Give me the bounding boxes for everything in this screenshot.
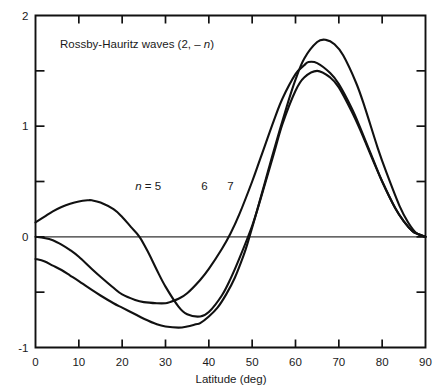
x-tick-label-10: 10: [72, 356, 85, 368]
y-tick-label-0: 0: [22, 231, 28, 243]
chart-title-text: Rossby-Hauritz waves (2, –: [60, 38, 204, 50]
x-axis-ticks-bottom: [79, 340, 382, 348]
rossby-haurwitz-wave-plot: 0102030405060708090 210-1 Rossby-Hauritz…: [0, 0, 438, 391]
y-axis-ticks-right: [417, 71, 426, 292]
chart-figure: 0102030405060708090 210-1 Rossby-Hauritz…: [0, 0, 438, 391]
chart-title: Rossby-Hauritz waves (2, – n): [60, 38, 214, 50]
x-axis-ticks-top: [79, 16, 382, 24]
x-tick-label-0: 0: [32, 356, 38, 368]
x-tick-label-60: 60: [289, 356, 302, 368]
curve-n-5: [36, 71, 426, 317]
x-axis-title: Latitude (deg): [196, 373, 267, 385]
y-tick-label-2: 2: [22, 10, 28, 22]
y-tick-label-1: 1: [22, 120, 28, 132]
x-tick-label-80: 80: [376, 356, 389, 368]
y-axis-tick-labels: 210-1: [18, 10, 28, 354]
curve-label-n-5: n = 5: [135, 180, 161, 192]
chart-title-close: ): [210, 38, 214, 50]
y-tick-label--1: -1: [18, 342, 28, 354]
x-tick-label-20: 20: [116, 356, 129, 368]
x-tick-label-40: 40: [202, 356, 215, 368]
x-axis-tick-labels: 0102030405060708090: [32, 356, 432, 368]
x-tick-label-50: 50: [246, 356, 259, 368]
curve-label-equals-5: = 5: [142, 180, 162, 192]
x-tick-label-30: 30: [159, 356, 172, 368]
curve-label-n-7: 7: [227, 180, 233, 192]
curve-label-n-6: 6: [201, 180, 207, 192]
curve-labels-group: n = 567: [135, 180, 233, 192]
x-tick-label-70: 70: [332, 356, 345, 368]
x-tick-label-90: 90: [419, 356, 432, 368]
